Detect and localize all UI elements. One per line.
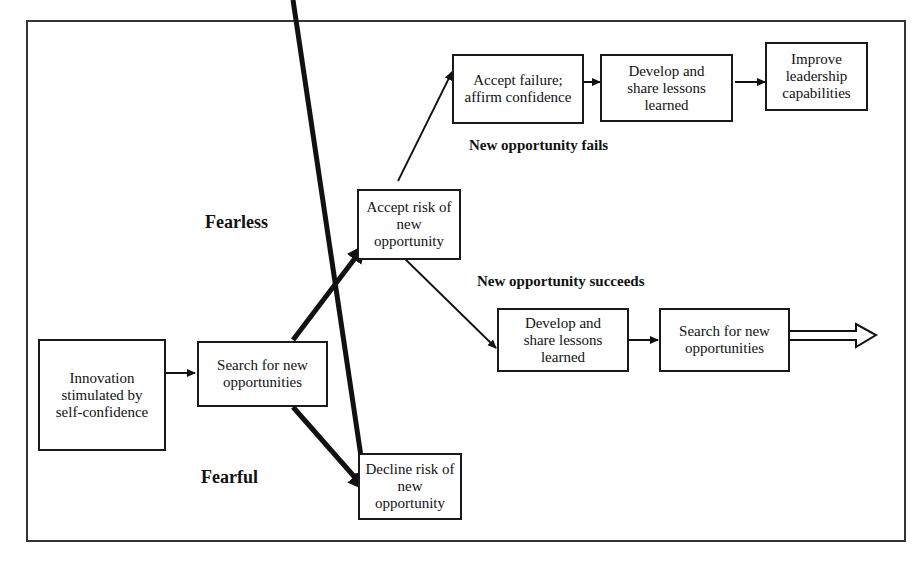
arrow-fails	[398, 72, 452, 181]
node-develop-share-fail: Develop and share lessons learned	[600, 54, 733, 122]
arrow-succeeds	[401, 255, 496, 348]
node-accept-risk: Accept risk of new opportunity	[357, 189, 461, 260]
hollow-continue-arrow	[789, 324, 876, 347]
label-fearless: Fearless	[205, 212, 268, 233]
node-develop-share-success: Develop and share lessons learned	[497, 308, 629, 372]
node-search-opportunities: Search for new opportunities	[197, 341, 328, 407]
arrow-fearless	[293, 245, 365, 340]
label-opportunity-succeeds: New opportunity succeeds	[477, 273, 645, 290]
node-decline-risk: Decline risk of new opportunity	[358, 453, 462, 520]
node-search-opportunities-2: Search for new opportunities	[659, 308, 790, 372]
label-opportunity-fails: New opportunity fails	[469, 137, 608, 154]
node-accept-failure: Accept failure; affirm confidence	[452, 54, 584, 124]
node-innovation: Innovation stimulated by self-confidence	[38, 339, 166, 451]
label-fearful: Fearful	[201, 467, 258, 488]
node-improve-leadership: Improve leadership capabilities	[765, 42, 868, 111]
